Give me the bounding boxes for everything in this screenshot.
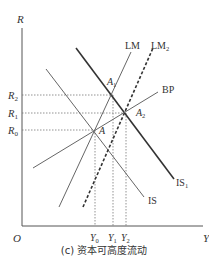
point-a1-label: A1: [106, 76, 116, 88]
axes: [22, 28, 203, 226]
lm-label: LM: [125, 40, 140, 51]
svg-text:Y1: Y1: [108, 232, 117, 244]
lm-curve: [59, 52, 131, 207]
x-axis-label: Y: [203, 232, 209, 244]
bp-label: BP: [162, 84, 175, 95]
x-tick-y2: Y2: [121, 232, 130, 244]
svg-text:LM: LM: [125, 40, 140, 51]
is-lm-bp-diagram: R Y O R2 R1 R0 Y0 Y1 Y2 LM LM2 BP IS IS1…: [0, 0, 209, 258]
svg-text:BP: BP: [162, 84, 175, 95]
svg-text:IS1: IS1: [176, 177, 188, 189]
bp-curve: [33, 92, 158, 168]
y-tick-r1: R1: [7, 108, 18, 121]
x-tick-y0: Y0: [90, 232, 99, 244]
svg-text:A: A: [98, 125, 106, 136]
point-a-label: A: [98, 125, 106, 136]
svg-text:R0: R0: [7, 125, 18, 138]
svg-text:A1: A1: [106, 76, 116, 88]
svg-text:A2: A2: [135, 107, 145, 119]
y-tick-r2: R2: [7, 90, 18, 103]
is1-label: IS1: [176, 177, 188, 189]
svg-text:IS: IS: [148, 195, 157, 206]
x-tick-y1: Y1: [108, 232, 117, 244]
point-a2-label: A2: [135, 107, 145, 119]
y-tick-r0: R0: [7, 125, 18, 138]
figure-caption: (c) 资本可高度流动: [61, 244, 147, 256]
lm2-label: LM2: [151, 40, 169, 52]
svg-text:R1: R1: [7, 108, 18, 121]
svg-text:LM2: LM2: [151, 40, 169, 52]
svg-text:R2: R2: [7, 90, 18, 103]
guide-lines: [22, 95, 127, 226]
is-label: IS: [148, 195, 157, 206]
origin-label: O: [13, 232, 21, 244]
svg-text:Y2: Y2: [121, 232, 130, 244]
y-axis-label: R: [16, 13, 24, 25]
svg-text:Y0: Y0: [90, 232, 99, 244]
